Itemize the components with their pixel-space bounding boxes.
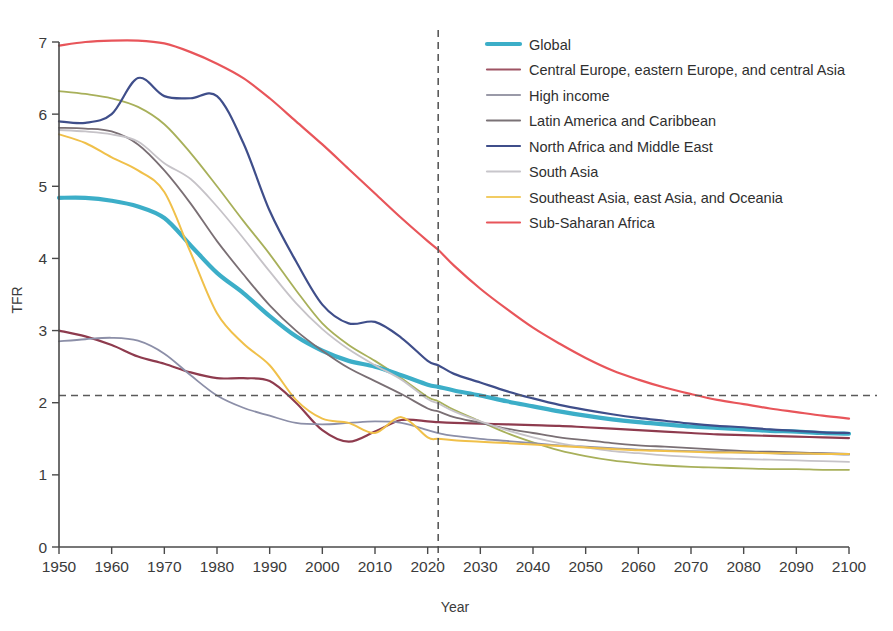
x-tick-label: 2030 — [463, 558, 498, 575]
legend-item-label: North Africa and Middle East — [529, 139, 713, 155]
x-tick-label: 2100 — [832, 558, 867, 575]
legend-item-label: High income — [529, 88, 610, 104]
x-tick-label: 1990 — [252, 558, 287, 575]
x-tick-label: 1960 — [94, 558, 129, 575]
y-tick-label: 6 — [38, 106, 47, 123]
legend-item-label: South Asia — [529, 164, 599, 180]
legend-item-label: Southeast Asia, east Asia, and Oceania — [529, 190, 784, 206]
legend-item-label: Central Europe, eastern Europe, and cent… — [529, 62, 846, 78]
x-tick-label: 2050 — [568, 558, 603, 575]
x-tick-label: 1980 — [200, 558, 235, 575]
x-tick-label: 2080 — [726, 558, 761, 575]
x-tick-label: 2000 — [305, 558, 340, 575]
legend-item-label: Latin America and Caribbean — [529, 113, 716, 129]
series-line — [59, 134, 849, 454]
y-tick-label: 5 — [38, 178, 47, 195]
series-layer — [59, 40, 849, 470]
y-axis-ticks: 01234567 — [38, 34, 59, 556]
x-tick-label: 2060 — [621, 558, 656, 575]
y-tick-label: 2 — [38, 394, 47, 411]
chart-svg: 01234567 1950196019701980199020002010202… — [0, 0, 893, 631]
tfr-line-chart-figure: 01234567 1950196019701980199020002010202… — [0, 0, 893, 631]
series-line — [59, 130, 849, 462]
series-line — [59, 128, 849, 454]
x-tick-label: 1950 — [42, 558, 77, 575]
x-tick-label: 2010 — [358, 558, 393, 575]
series-line — [59, 338, 849, 455]
series-line — [59, 91, 849, 470]
series-line — [59, 198, 849, 434]
x-tick-label: 2040 — [516, 558, 551, 575]
y-tick-label: 3 — [38, 322, 47, 339]
y-tick-label: 7 — [38, 34, 47, 51]
x-tick-label: 2090 — [779, 558, 814, 575]
x-tick-label: 2020 — [410, 558, 445, 575]
x-tick-label: 1970 — [147, 558, 182, 575]
reference-lines-layer — [59, 30, 877, 561]
series-line — [59, 331, 849, 442]
series-line — [59, 78, 849, 433]
y-tick-label: 0 — [38, 539, 47, 556]
legend-item-label: Global — [529, 37, 571, 53]
y-tick-label: 1 — [38, 466, 47, 483]
axis-layer: 01234567 1950196019701980199020002010202… — [38, 34, 866, 576]
legend-item-label: Sub-Saharan Africa — [529, 215, 656, 231]
y-axis-title: TFR — [9, 286, 25, 313]
x-axis-ticks: 1950196019701980199020002010202020302040… — [42, 547, 867, 575]
x-axis-title: Year — [441, 599, 470, 615]
chart-legend: GlobalCentral Europe, eastern Europe, an… — [487, 37, 846, 232]
y-tick-label: 4 — [38, 250, 47, 267]
x-tick-label: 2070 — [674, 558, 709, 575]
